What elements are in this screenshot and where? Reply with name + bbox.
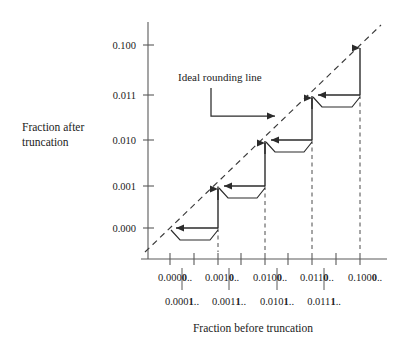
y-tick-label-0010: 0.010	[112, 135, 136, 146]
step-brace-3	[313, 97, 360, 107]
diagram-svg: 0.100 0.011 0.010 0.001 0.000 0.0000.. 0…	[0, 0, 400, 345]
step-brace-2	[266, 142, 312, 152]
ideal-rounding-line-leader	[211, 88, 275, 116]
y-axis-title-line1: Fraction after	[22, 121, 84, 133]
x-axis-tick-labels-lower: 0.0001.. 0.0011.. 0.0101.. 0.0111..	[165, 296, 341, 307]
y-tick-label-0001: 0.001	[112, 181, 136, 192]
x-axis-tick-labels-upper: 0.0000.. 0.0010.. 0.0100.. 0.0110.. 0.10…	[158, 272, 382, 283]
y-tick-label-0011: 0.011	[113, 90, 136, 101]
ideal-rounding-line-label: Ideal rounding line	[178, 71, 262, 83]
x-tick-label-lower-3: 0.0101..	[260, 296, 294, 307]
ideal-rounding-line-annotation: Ideal rounding line	[178, 71, 275, 116]
x-tick-label-upper-1: 0.0000..	[158, 272, 192, 283]
step-brace-1	[219, 188, 265, 198]
x-tick-label-upper-3: 0.0100..	[253, 272, 287, 283]
y-tick-label-0100: 0.100	[112, 40, 136, 51]
ideal-rounding-line	[145, 25, 381, 252]
x-tick-label-upper-4: 0.0110..	[300, 272, 334, 283]
step-brace-0	[171, 230, 218, 240]
x-tick-label-lower-4: 0.0111..	[307, 296, 341, 307]
truncation-diagram: 0.100 0.011 0.010 0.001 0.000 0.0000.. 0…	[0, 0, 400, 345]
y-tick-label-0000: 0.000	[112, 223, 136, 234]
x-tick-label-lower-2: 0.0011..	[212, 296, 246, 307]
x-tick-label-upper-5: 0.1000..	[348, 272, 382, 283]
axes	[141, 22, 387, 259]
y-axis-tick-labels: 0.100 0.011 0.010 0.001 0.000	[112, 40, 136, 234]
x-axis-title: Fraction before truncation	[193, 322, 313, 334]
x-tick-label-lower-1: 0.0001..	[165, 296, 199, 307]
drop-lines	[218, 95, 360, 252]
x-tick-label-upper-2: 0.0010..	[205, 272, 239, 283]
y-axis-title-line2: truncation	[22, 136, 69, 148]
